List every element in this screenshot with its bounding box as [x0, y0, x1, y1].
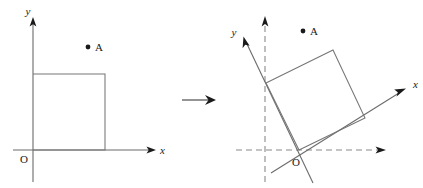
left-square — [33, 74, 105, 150]
transform-arrow-group — [182, 95, 216, 105]
left-panel-group: y x O A — [13, 5, 165, 182]
left-origin-label: O — [20, 153, 28, 165]
right-point-a-dot — [301, 29, 306, 34]
diagram-root: y x O A — [0, 0, 423, 188]
right-panel-group: y x O A — [231, 16, 418, 183]
left-x-axis-label: x — [159, 144, 165, 156]
right-square — [266, 50, 365, 150]
left-y-axis-label: y — [25, 5, 31, 17]
right-rotated-y-axis: y — [231, 26, 313, 183]
right-rotated-x-axis-label: x — [412, 78, 418, 90]
right-dashed-vertical-axis — [262, 16, 269, 182]
left-point-a-label: A — [95, 41, 103, 53]
coordinate-rotation-figure: y x O A — [0, 0, 423, 188]
left-point-a-dot — [86, 45, 91, 50]
right-point-a-label: A — [310, 25, 318, 37]
right-dashed-vertical-arrowhead-icon — [262, 16, 269, 27]
right-origin-label: O — [292, 156, 300, 168]
right-rotated-y-axis-label: y — [231, 26, 237, 38]
